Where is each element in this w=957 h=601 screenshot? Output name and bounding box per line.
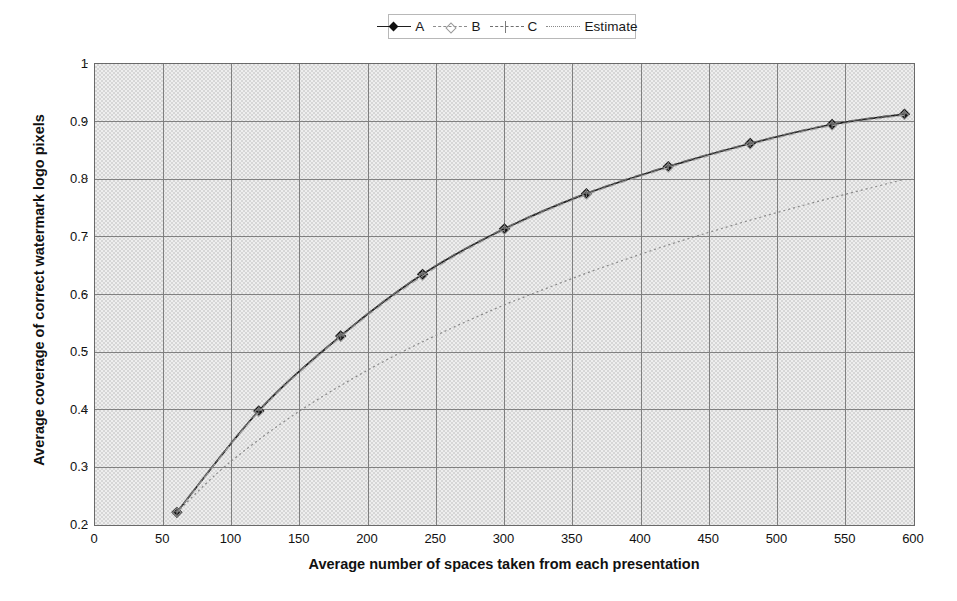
y-tick-label: 0.5 — [42, 344, 88, 359]
y-tick-label: 1 — [42, 56, 88, 71]
series-line-b — [177, 115, 905, 512]
series-line-a — [177, 114, 905, 512]
y-tick-label: 0.3 — [42, 459, 88, 474]
x-tick-label: 50 — [132, 531, 192, 546]
chart-legend: A B C Estimate — [388, 14, 636, 39]
series-line-c — [177, 114, 905, 512]
y-tick-label: 0.2 — [42, 517, 88, 532]
legend-entry-a[interactable]: A — [377, 15, 433, 38]
y-tick-mark — [84, 351, 88, 352]
y-tick-mark — [84, 524, 88, 525]
x-tick-label: 500 — [747, 531, 807, 546]
plot-area — [94, 63, 915, 526]
x-tick-label: 400 — [610, 531, 670, 546]
legend-entry-b[interactable]: B — [433, 15, 489, 38]
legend-swatch-a-icon — [377, 21, 411, 33]
legend-swatch-c-icon — [490, 21, 524, 33]
y-tick-mark — [84, 236, 88, 237]
x-tick-label: 150 — [269, 531, 329, 546]
y-tick-mark — [84, 121, 88, 122]
y-axis-tick-labels: 10.90.80.70.60.50.40.30.2 — [40, 63, 88, 524]
y-tick-mark — [84, 466, 88, 467]
legend-entry-estimate[interactable]: Estimate — [546, 15, 646, 38]
x-tick-label: 200 — [337, 531, 397, 546]
x-tick-label: 450 — [678, 531, 738, 546]
legend-label-b: B — [471, 20, 480, 34]
x-tick-label: 250 — [405, 531, 465, 546]
y-tick-label: 0.6 — [42, 286, 88, 301]
legend-swatch-b-icon — [433, 21, 467, 33]
legend-entry-c[interactable]: C — [490, 15, 547, 38]
legend-label-estimate: Estimate — [584, 20, 637, 34]
x-axis-tick-labels: 050100150200250300350400450500550600 — [94, 531, 913, 551]
x-tick-label: 550 — [815, 531, 875, 546]
y-tick-mark — [84, 294, 88, 295]
chart-container: A B C Estimate Average coverage of corre… — [0, 0, 957, 601]
x-axis-title: Average number of spaces taken from each… — [94, 556, 914, 572]
y-tick-label: 0.8 — [42, 171, 88, 186]
x-tick-label: 350 — [542, 531, 602, 546]
x-tick-label: 600 — [883, 531, 943, 546]
legend-label-c: C — [528, 20, 538, 34]
legend-swatch-estimate-icon — [546, 21, 580, 33]
x-tick-label: 300 — [474, 531, 534, 546]
y-tick-mark — [84, 178, 88, 179]
y-tick-label: 0.7 — [42, 228, 88, 243]
y-tick-mark — [84, 63, 88, 64]
x-tick-label: 100 — [201, 531, 261, 546]
x-tick-label: 0 — [64, 531, 124, 546]
y-tick-label: 0.9 — [42, 113, 88, 128]
data-series-layer — [95, 64, 914, 525]
y-tick-label: 0.4 — [42, 401, 88, 416]
legend-label-a: A — [415, 20, 424, 34]
y-tick-mark — [84, 409, 88, 410]
series-line-estimate — [177, 179, 905, 512]
